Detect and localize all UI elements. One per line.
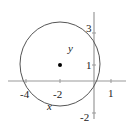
y-tick-label-1: 1 [86,59,92,71]
x-tick-label-neg4: -4 [20,88,30,100]
y-axis-label: y [67,42,73,54]
x-tick-label-neg2: -2 [53,88,62,100]
y-tick-label-3: 3 [86,22,92,34]
x-tick-label-1: 1 [108,87,114,99]
center-point [58,63,62,67]
y-tick-label-neg2: -2 [80,111,89,123]
diagram: -4 -2 1 3 1 -2 y x [0,0,134,126]
x-axis-label: x [46,100,52,112]
